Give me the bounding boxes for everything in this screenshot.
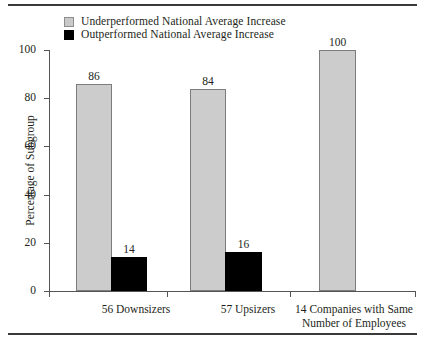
bar-upsizers-under[interactable]: 84: [190, 89, 226, 291]
bar-same-under-value-label: 100: [329, 36, 346, 48]
gray-square-icon: [64, 17, 74, 27]
y-axis-title: Percentage of Subgroup: [24, 50, 38, 291]
y-tick-60: 60: [44, 146, 49, 147]
x-tick-3: [415, 291, 416, 297]
legend-label-underperformed: Underperformed National Average Increase: [81, 15, 286, 28]
legend-label-outperformed: Outperformed National Average Increase: [81, 28, 274, 41]
y-axis-line: [49, 50, 50, 291]
bar-downsizers-over[interactable]: 14: [111, 257, 147, 291]
black-square-icon: [64, 30, 74, 40]
cat-label-same-line1: 14 Companies with Same: [289, 303, 419, 317]
y-tick-20: 20: [44, 243, 49, 244]
bar-upsizers-over[interactable]: 16: [225, 252, 262, 291]
y-tick-40: 40: [44, 195, 49, 196]
x-tick-0: [49, 291, 50, 297]
y-tick-80: 80: [44, 98, 49, 99]
plot-area: 020406080100 Percentage of Subgroup 8614…: [49, 50, 415, 291]
y-tick-100: 100: [44, 50, 49, 51]
x-tick-1: [167, 291, 168, 297]
bottom-rule-divider: [8, 333, 417, 335]
bar-downsizers-under[interactable]: 86: [76, 84, 112, 291]
top-rule-divider: [8, 4, 417, 6]
cat-label-same-line2: Number of Employees: [289, 317, 419, 331]
legend-item-outperformed: Outperformed National Average Increase: [64, 28, 286, 41]
legend-item-underperformed: Underperformed National Average Increase: [64, 15, 286, 28]
chart-legend: Underperformed National Average Increase…: [64, 15, 286, 41]
x-tick-2: [290, 291, 291, 297]
bar-upsizers-over-value-label: 16: [238, 238, 250, 250]
bar-same-under[interactable]: 100: [319, 50, 356, 291]
x-axis-line: [49, 291, 415, 292]
bar-downsizers-under-value-label: 86: [88, 70, 100, 82]
bar-upsizers-under-value-label: 84: [202, 75, 214, 87]
figure-container: Underperformed National Average Increase…: [0, 0, 425, 346]
cat-label-same: 14 Companies with SameNumber of Employee…: [289, 303, 419, 330]
bar-downsizers-over-value-label: 14: [123, 243, 135, 255]
